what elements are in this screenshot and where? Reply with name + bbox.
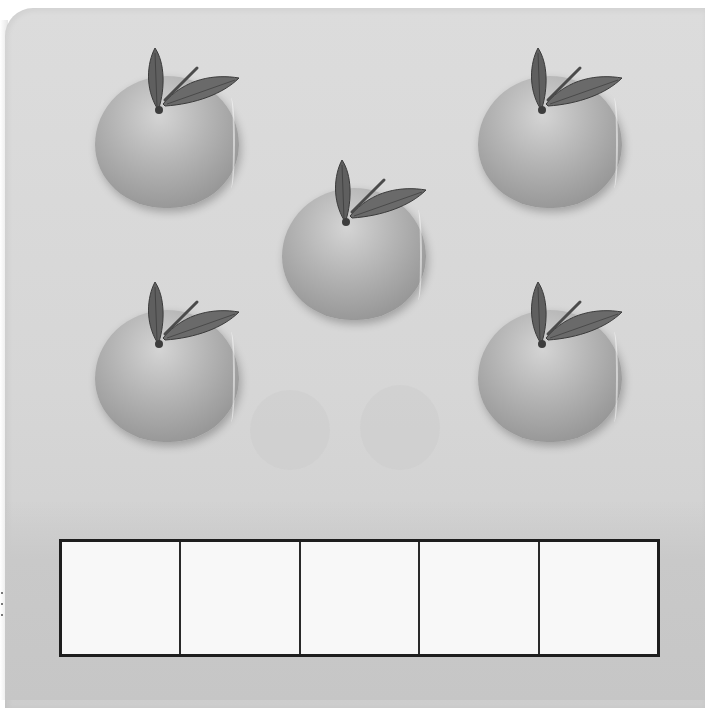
leaves-icon: [135, 282, 245, 362]
orange-illustration: [478, 70, 624, 210]
orange-illustration: [95, 70, 241, 210]
frame-cell[interactable]: [420, 542, 539, 654]
frame-cell[interactable]: [181, 542, 300, 654]
leaves-icon: [135, 48, 245, 128]
faint-circle: [360, 385, 440, 470]
orange-illustration: [95, 304, 241, 444]
frame-cell[interactable]: [301, 542, 420, 654]
orange-illustration: [282, 182, 428, 322]
leaves-icon: [518, 48, 628, 128]
leaves-icon: [322, 160, 432, 240]
orange-illustration: [478, 304, 624, 444]
margin-marks: [1, 592, 4, 625]
answer-frame: [59, 539, 660, 657]
faint-circle: [250, 390, 330, 470]
frame-cell[interactable]: [540, 542, 657, 654]
frame-cell[interactable]: [62, 542, 181, 654]
leaves-icon: [518, 282, 628, 362]
